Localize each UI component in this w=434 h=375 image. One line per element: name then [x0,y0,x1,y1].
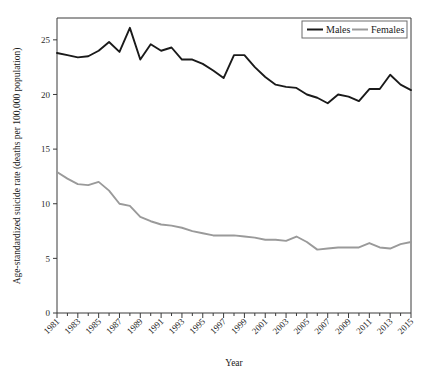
legend-label-males: Males [326,24,351,35]
y-tick-label-10: 10 [41,199,51,209]
chart-legend: Males Females [302,21,407,38]
y-tick-label-5: 5 [46,254,51,264]
legend-label-females: Females [371,24,404,35]
chart-figure: 0510152025 19811983198519871989199119931… [0,0,434,375]
y-tick-label-15: 15 [41,144,51,154]
y-axis-title: Age-standardized suicide rate (deaths pe… [12,48,23,285]
y-tick-label-0: 0 [46,308,51,318]
line-chart: 0510152025 19811983198519871989199119931… [0,0,434,375]
y-tick-label-25: 25 [41,35,51,45]
y-tick-label-20: 20 [41,90,51,100]
x-axis-title: Year [225,358,243,368]
